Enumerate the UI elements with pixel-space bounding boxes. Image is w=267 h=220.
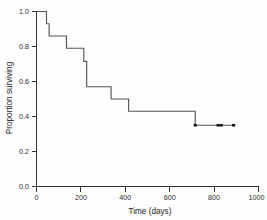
x-tick-label-2: 400 — [119, 193, 131, 202]
y-axis-title: Proportion surviving — [5, 61, 14, 134]
x-tick-label-4: 800 — [208, 193, 220, 202]
censor-mark — [220, 124, 223, 127]
censor-mark — [232, 124, 235, 127]
y-tick-label-4: 0.8 — [19, 42, 29, 51]
y-tick-label-1: 0.2 — [19, 147, 29, 156]
y-tick-label-5: 1.0 — [19, 7, 29, 16]
x-axis-ticks: 0 200 400 600 800 1000 — [35, 187, 265, 203]
x-tick-label-0: 0 — [35, 193, 39, 202]
survival-step-curve — [37, 12, 235, 126]
y-tick-label-3: 0.6 — [19, 77, 29, 86]
x-tick-label-5: 1000 — [249, 193, 265, 202]
y-axis-ticks: 0.0 0.2 0.4 0.6 0.8 1.0 — [19, 7, 37, 191]
y-tick-label-0: 0.0 — [19, 182, 29, 191]
chart-canvas: 0.0 0.2 0.4 0.6 0.8 1.0 0 200 400 600 80… — [0, 0, 267, 220]
kaplan-meier-chart: 0.0 0.2 0.4 0.6 0.8 1.0 0 200 400 600 80… — [0, 0, 267, 220]
x-tick-label-3: 600 — [164, 193, 176, 202]
censor-mark — [217, 124, 220, 127]
x-tick-label-1: 200 — [75, 193, 87, 202]
censor-mark — [194, 124, 197, 127]
y-tick-label-2: 0.4 — [19, 112, 29, 121]
axes-group — [37, 11, 259, 187]
x-axis-title: Time (days) — [129, 207, 172, 216]
